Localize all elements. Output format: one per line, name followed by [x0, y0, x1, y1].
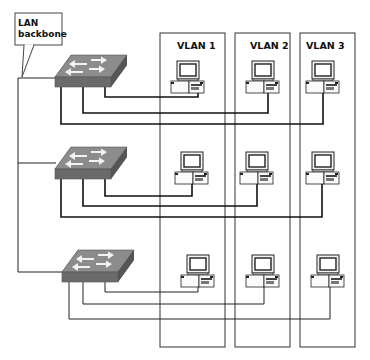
switch-2-icon — [55, 147, 127, 179]
vlan-1-label: VLAN 1 — [177, 40, 216, 51]
computer-icon — [240, 152, 273, 184]
computer-icon — [175, 152, 208, 184]
computer-icon — [246, 255, 279, 287]
computer-icon — [246, 61, 279, 93]
callout-line-2: backbone — [18, 29, 67, 39]
switch-1-icon — [55, 55, 127, 87]
lan-backbone-callout: LAN backbone — [15, 13, 67, 77]
computer-icon — [181, 255, 214, 287]
vlan-3-label: VLAN 3 — [306, 40, 345, 51]
computer-icon — [306, 61, 339, 93]
callout-line-1: LAN — [18, 18, 38, 28]
vlan-2-label: VLAN 2 — [250, 40, 289, 51]
vlan-network-diagram: VLAN 1 VLAN 2 VLAN 3 LAN backbone — [0, 0, 370, 360]
switch-3-icon — [62, 250, 134, 282]
computer-icon — [311, 255, 344, 287]
computer-icon — [306, 152, 339, 184]
computer-icon — [171, 61, 204, 93]
